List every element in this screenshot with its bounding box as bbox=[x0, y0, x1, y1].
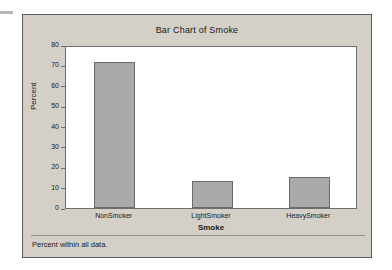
y-axis-title: Percent bbox=[29, 82, 38, 110]
bar-heavysmoker[interactable] bbox=[289, 177, 330, 208]
y-axis-tick-label: 50 bbox=[51, 102, 59, 109]
plot-area[interactable] bbox=[65, 46, 357, 209]
bar-nonsmoker[interactable] bbox=[94, 62, 135, 208]
y-axis-tick-label: 60 bbox=[51, 82, 59, 89]
graph-panel[interactable]: Bar Chart of Smoke 01020304050607080 Per… bbox=[22, 14, 372, 258]
panel-edge-stub bbox=[0, 11, 13, 14]
y-axis-tick-label: 40 bbox=[51, 123, 59, 130]
y-axis-tick-group: 01020304050607080 bbox=[45, 46, 65, 209]
y-axis-tick-label: 80 bbox=[51, 41, 59, 48]
y-axis-tick-label: 10 bbox=[51, 184, 59, 191]
x-axis-label-heavysmoker: HeavySmoker bbox=[260, 212, 357, 219]
footnote-divider bbox=[31, 235, 365, 236]
x-axis-label-lightsmoker: LightSmoker bbox=[162, 212, 259, 219]
y-axis-tick-label: 0 bbox=[55, 204, 59, 211]
y-axis-tick-label: 20 bbox=[51, 163, 59, 170]
bars-group bbox=[66, 47, 356, 208]
y-axis-tick-label: 30 bbox=[51, 143, 59, 150]
y-axis: 01020304050607080 bbox=[45, 46, 65, 209]
footnote-text: Percent within all data. bbox=[32, 240, 107, 249]
page-title: Bar Chart of Smoke bbox=[23, 25, 371, 35]
y-axis-tick-label: 70 bbox=[51, 61, 59, 68]
x-axis-label-nonsmoker: NonSmoker bbox=[65, 212, 162, 219]
x-axis-title: Smoke bbox=[65, 223, 357, 232]
bar-lightsmoker[interactable] bbox=[192, 181, 233, 209]
